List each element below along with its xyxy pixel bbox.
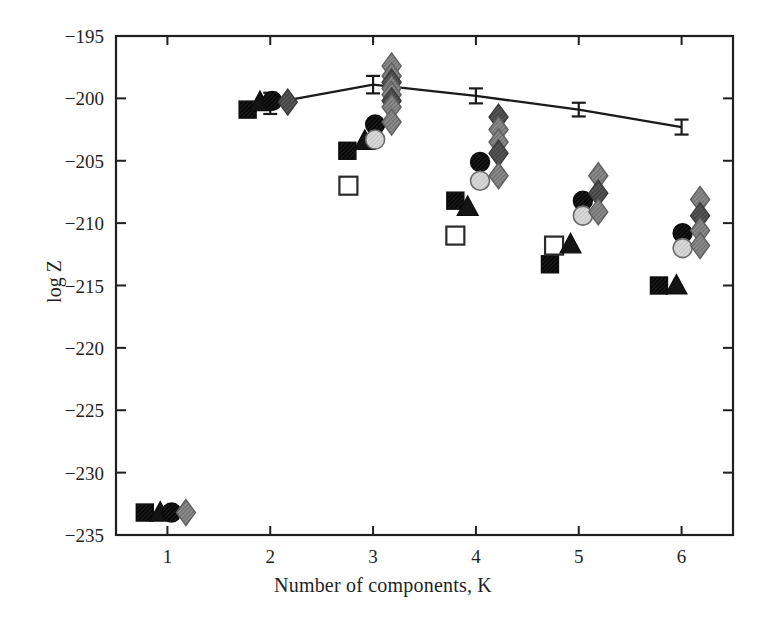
y-tick-label: −210 [65,213,104,234]
marker-light-circle [673,239,692,258]
marker-gray-diamond [382,109,401,135]
y-tick-label: −205 [65,151,104,172]
series-filled-circle [162,91,692,522]
series-gray-diamond [176,53,709,526]
x-axis-label: Number of components, K [0,574,766,597]
y-tick-label: −195 [65,26,104,47]
series-error-bar-line [263,76,688,135]
y-tick-label: −215 [65,276,104,297]
series-filled-triangle [150,91,687,521]
series-filled-square [136,101,667,521]
marker-filled-square [339,142,356,159]
series-open-square [339,177,563,255]
axis-ticks [116,36,733,535]
x-axis-label-text: Number of components, K [274,574,492,596]
y-axis-label: log Z [43,212,66,352]
marker-open-square [446,227,464,245]
figure-container: 123456−195−200−205−210−215−220−225−230−2… [0,0,766,617]
y-axis-label-text: log Z [43,260,65,303]
x-tick-label: 1 [163,546,173,567]
marker-gray-diamond [691,233,710,259]
marker-light-circle [573,206,592,225]
marker-gray-diamond [176,500,195,526]
y-tick-label: −230 [65,463,104,484]
y-tick-label: −225 [65,400,104,421]
x-tick-label: 5 [574,546,584,567]
marker-filled-square [541,256,558,273]
marker-light-circle [471,171,490,190]
x-tick-label: 2 [266,546,276,567]
marker-gray-diamond [489,163,508,189]
y-tick-label: −200 [65,88,104,109]
marker-filled-square [650,277,667,294]
plot-frame [116,36,733,535]
chart-plot: 123456−195−200−205−210−215−220−225−230−2… [0,0,766,617]
data-series-group [136,53,709,526]
series-light-circle [366,130,692,258]
marker-filled-circle [471,152,490,171]
axis-tick-labels: 123456−195−200−205−210−215−220−225−230−2… [65,26,687,567]
y-tick-label: −220 [65,338,104,359]
y-tick-label: −235 [65,525,104,546]
x-tick-label: 3 [368,546,378,567]
x-tick-label: 4 [471,546,481,567]
marker-dark-diamond [278,89,297,115]
marker-open-square [339,177,357,195]
marker-filled-triangle [666,275,687,295]
marker-light-circle [366,130,385,149]
x-tick-label: 6 [677,546,687,567]
